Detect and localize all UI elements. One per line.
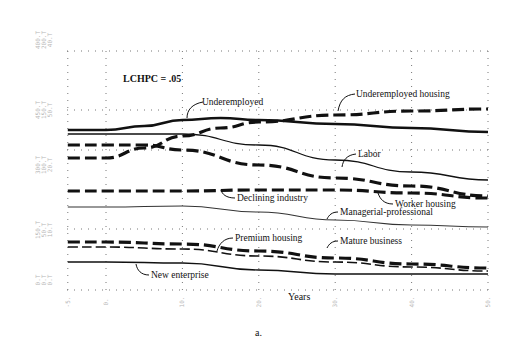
- x-tick-label: -5.: [64, 297, 71, 308]
- y-scale-label: 40.T: [46, 32, 53, 47]
- x-axis-ticks: -5.0.10.20.30.40.50.: [64, 297, 491, 308]
- annotation-declining-industry: Declining industry: [237, 193, 308, 203]
- annotation-premium-housing: Premium housing: [235, 233, 303, 243]
- parameter-label: LCHPC = .05: [123, 73, 181, 84]
- series-line-labor: [68, 134, 488, 180]
- annotation-managerial-professional: Managerial-professional: [340, 207, 433, 217]
- y-axis-scale-labels: 400.T200.T40.T450.T150.T50.T300.T100.T20…: [34, 31, 53, 286]
- annotation-leader: [136, 264, 149, 275]
- series-line-worker-housing: [68, 145, 488, 196]
- annotation-leader: [327, 212, 338, 219]
- y-scale-label: 50.T: [46, 102, 53, 117]
- y-scale-label: 20.T: [46, 157, 53, 172]
- annotation-leader: [338, 94, 355, 111]
- x-tick-label: 10.: [178, 297, 185, 308]
- series-line-premium-housing: [68, 242, 488, 268]
- annotation-labor: Labor: [358, 149, 382, 159]
- x-tick-label: 40.: [408, 297, 415, 308]
- x-tick-label: 50.: [484, 297, 491, 308]
- figure-caption: a.: [255, 327, 262, 338]
- annotation-underemployed-housing: Underemployed housing: [356, 89, 450, 99]
- x-tick-label: 20.: [255, 297, 262, 308]
- y-scale-label: 10.T: [46, 222, 53, 237]
- annotation-leader: [378, 193, 393, 204]
- x-tick-label: 0.: [102, 298, 109, 305]
- annotation-new-enterprise: New enterprise: [151, 270, 209, 280]
- annotation-leader: [327, 241, 338, 248]
- line-chart: 400.T200.T40.T450.T150.T50.T300.T100.T20…: [0, 0, 515, 351]
- grid: [67, 51, 490, 290]
- annotation-mature-business: Mature business: [340, 236, 402, 246]
- y-scale-label: 0.T: [46, 274, 53, 285]
- series-lines: [68, 109, 488, 274]
- x-axis-label: Years: [288, 291, 310, 302]
- annotation-underemployed: Underemployed: [202, 97, 263, 107]
- x-tick-label: 30.: [331, 297, 338, 308]
